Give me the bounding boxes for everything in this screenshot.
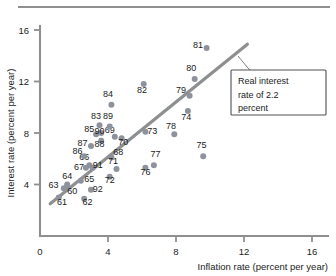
data-point: 84 [103,89,114,108]
data-point-marker [64,182,70,188]
data-point-label: 70 [118,137,128,147]
callout-line-2: rate of 2.2 [238,90,279,100]
x-tick-label-8: 8 [173,246,178,257]
data-point: 61 [56,194,67,207]
data-point-label: 77 [151,149,161,159]
data-point: 92 [88,184,103,194]
data-point-label: 83 [91,111,101,121]
data-point-label: 65 [84,174,94,184]
data-point-marker [114,166,120,172]
data-point: 63 [49,180,67,191]
data-point-marker [107,124,113,130]
data-point-label: 80 [186,63,196,73]
data-point-label: 91 [93,160,103,170]
data-point: 70 [118,135,128,146]
data-point-label: 62 [83,197,93,207]
data-point-label: 87 [77,138,87,148]
data-point-marker [204,45,210,51]
data-point-marker [78,178,84,184]
data-point-label: 72 [105,175,115,185]
x-axis-ticks: 0 4 8 12 16 [37,236,317,257]
y-tick-label-8: 8 [24,128,29,139]
data-point: 78 [166,121,177,137]
data-point-label: 71 [108,156,118,166]
y-tick-label-12: 12 [18,76,29,87]
callout-group: Real interest rate of 2.2 percent [231,56,326,115]
data-point-label: 73 [147,126,157,136]
data-point-label: 64 [62,171,72,181]
data-point-label: 61 [57,197,67,207]
data-point-label: 84 [103,89,113,99]
data-point-marker [187,93,193,99]
data-point-label: 90 [94,126,104,136]
data-point-marker [192,76,198,82]
callout-line-3: percent [238,103,269,113]
data-point: 76 [140,165,150,178]
data-point: 75 [196,140,206,159]
data-point: 62 [81,196,92,207]
x-tick-label-0: 0 [37,246,42,257]
x-tick-label-16: 16 [307,246,318,257]
x-tick-label-4: 4 [105,246,110,257]
data-point: 91 [90,160,103,171]
y-tick-label-16: 16 [18,25,29,36]
data-point: 74 [181,108,191,122]
data-point-label: 88 [94,139,104,149]
data-point-label: 74 [181,112,191,122]
data-point-label: 76 [140,167,150,177]
data-point: 77 [151,149,161,168]
data-point-marker [108,102,114,108]
x-tick-label-12: 12 [239,246,250,257]
data-point-label: 89 [103,111,113,121]
x-axis-title: Inflation rate (percent per year) [198,261,328,272]
data-point-label: 81 [193,40,203,50]
scatter-plot: 4 8 12 16 0 4 8 12 16 Inflation rate (pe… [0,0,336,276]
data-point: 90 [94,126,104,136]
data-point-label: 67 [74,162,84,172]
data-point-label: 63 [49,180,59,190]
data-point-marker [171,131,177,137]
data-point: 65 [78,174,95,184]
data-point-label: 92 [93,184,103,194]
data-point-label: 75 [196,140,206,150]
data-point-label: 82 [137,85,147,95]
data-point-label: 85 [84,124,94,134]
data-point: 71 [108,156,119,172]
data-point-marker [200,153,206,159]
data-point-marker [151,162,157,168]
y-axis-title: Interest rate (percent per year) [5,69,16,198]
data-point: 72 [105,174,115,185]
data-point-marker [88,143,94,149]
chart-figure: 4 8 12 16 0 4 8 12 16 Inflation rate (pe… [0,0,336,276]
data-point: 81 [193,40,210,51]
data-point-label: 78 [166,121,176,131]
data-point: 88 [94,138,104,149]
data-point-label: 79 [176,85,186,95]
y-tick-label-4: 4 [24,179,29,190]
data-point: 82 [137,81,147,95]
y-axis-ticks: 4 8 12 16 [18,25,40,191]
data-point: 80 [186,63,197,82]
data-point: 87 [77,138,94,149]
callout-line-1: Real interest [238,76,289,86]
data-points-layer: 6061626364656667686970717273747576777879… [49,40,210,207]
